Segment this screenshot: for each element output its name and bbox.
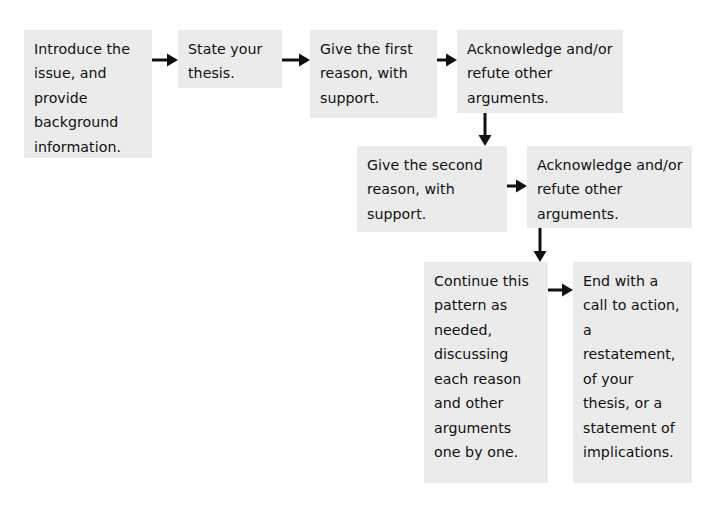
- flowchart-canvas: Introduce the issue, and provide backgro…: [0, 0, 718, 505]
- arrow-second-reason-to-ack2: [507, 176, 527, 196]
- flowchart-node-continue-pattern: Continue this pattern as needed, discuss…: [424, 262, 548, 483]
- flowchart-node-second-reason: Give the second reason, with support.: [357, 146, 507, 232]
- arrow-ack1-to-second-reason: [475, 113, 495, 146]
- flowchart-node-end-with-call: End with a call to action, a restatement…: [573, 262, 692, 483]
- flowchart-node-first-reason: Give the first reason, with support.: [310, 30, 437, 118]
- arrow-introduce-to-thesis: [152, 50, 178, 70]
- arrow-thesis-to-first-reason: [282, 50, 310, 70]
- flowchart-node-state-thesis: State your thesis.: [178, 30, 282, 88]
- flowchart-node-acknowledge-refute-1: Acknowledge and/or refute other argument…: [457, 30, 623, 113]
- arrow-first-reason-to-ack1: [437, 50, 457, 70]
- flowchart-node-acknowledge-refute-2: Acknowledge and/or refute other argument…: [527, 146, 692, 228]
- arrow-continue-to-end: [548, 280, 573, 300]
- arrow-ack2-to-continue: [530, 228, 550, 262]
- flowchart-node-introduce-issue: Introduce the issue, and provide backgro…: [24, 30, 152, 158]
